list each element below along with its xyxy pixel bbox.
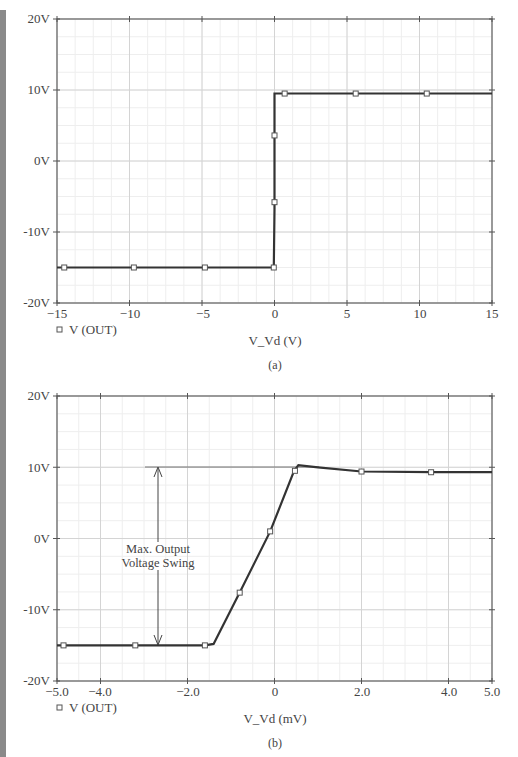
plot-b-ytick-neg10: -10V (23, 602, 50, 617)
plot-a-xtick: −15 (47, 306, 67, 321)
data-point-marker (424, 91, 429, 96)
plot-b-xtick: −2.0 (176, 684, 200, 699)
plot-a-xlabel: V_Vd (V) (248, 333, 301, 348)
plot-a-xtick: 10 (414, 306, 427, 321)
plot-a-caption: (a) (268, 358, 281, 372)
plot-b: Max. Output Voltage Swing 20V 10V 0V -10… (23, 388, 500, 750)
plot-a: 20V 10V 0V -10V -20V −15 −10 −5 0 5 10 1… (23, 11, 498, 372)
data-point-marker (131, 265, 136, 270)
legend-square-icon (57, 327, 62, 332)
plot-b-xtick: 5.0 (484, 684, 500, 699)
plot-b-markers (61, 468, 434, 648)
data-point-marker (272, 200, 277, 205)
plot-a-ytick-0: 0V (34, 153, 51, 168)
plot-a-legend-label: V (OUT) (69, 322, 117, 337)
plot-b-ytick-0: 0V (34, 531, 51, 546)
data-point-marker (268, 529, 273, 534)
data-point-marker (429, 470, 434, 475)
plot-b-caption: (b) (268, 736, 282, 750)
plot-b-xtick: 4.0 (441, 684, 457, 699)
plot-a-xtick: −5 (196, 306, 210, 321)
data-point-marker (202, 643, 207, 648)
data-point-marker (353, 91, 358, 96)
plot-b-xtick: 2.0 (354, 684, 370, 699)
plot-a-ytick-neg10: -10V (23, 224, 50, 239)
annotation-text-line2: Voltage Swing (121, 556, 195, 570)
plot-a-xtick: 0 (272, 306, 279, 321)
plot-a-trace-vout (57, 94, 492, 268)
data-point-marker (272, 133, 277, 138)
annotation-text-line1: Max. Output (126, 542, 190, 556)
plot-a-ytick-20: 20V (28, 11, 51, 26)
plot-a-xtick: 5 (344, 306, 351, 321)
data-point-marker (359, 469, 364, 474)
plot-b-xtick: −5.0 (45, 684, 69, 699)
plot-b-xtick: 0 (272, 684, 279, 699)
figure: 20V 10V 0V -10V -20V −15 −10 −5 0 5 10 1… (0, 0, 518, 757)
data-point-marker (237, 590, 242, 595)
data-point-marker (282, 91, 287, 96)
plot-b-grid (57, 396, 492, 681)
plot-b-xlabel: V_Vd (mV) (243, 711, 306, 726)
plot-a-markers (62, 91, 430, 270)
data-point-marker (292, 468, 297, 473)
data-point-marker (61, 643, 66, 648)
plot-b-xtick: −4.0 (88, 684, 112, 699)
plot-b-ytick-20: 20V (28, 388, 51, 403)
legend-square-icon (57, 705, 62, 710)
plot-b-ytick-10: 10V (28, 460, 51, 475)
data-point-marker (62, 265, 67, 270)
plot-a-xtick: −10 (120, 306, 140, 321)
data-point-marker (133, 643, 138, 648)
plot-a-xtick: 15 (486, 306, 499, 321)
data-point-marker (202, 265, 207, 270)
plot-b-legend-label: V (OUT) (69, 700, 117, 715)
plot-a-ytick-10: 10V (28, 82, 51, 97)
data-point-marker (271, 265, 276, 270)
